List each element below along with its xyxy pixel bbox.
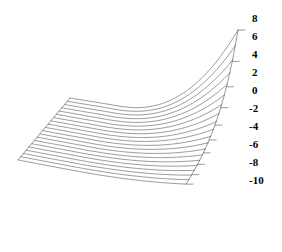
waterfall-plot-figure: 86420-2-4-6-8-10 — [0, 0, 282, 252]
waterfall-plot-canvas — [0, 0, 282, 252]
